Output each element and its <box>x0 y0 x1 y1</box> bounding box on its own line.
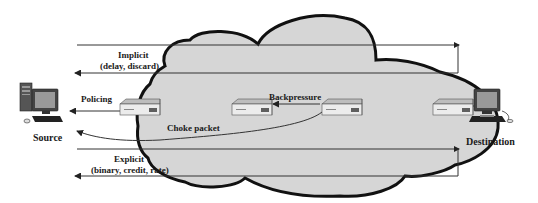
implicit-label: Implicit <box>118 51 149 60</box>
source-computer-icon <box>20 83 63 123</box>
destination-label: Destination <box>466 137 515 147</box>
router-4 <box>433 99 473 115</box>
explicit-label: Explicit <box>114 155 144 164</box>
router-1 <box>120 99 160 115</box>
policing-label: Policing <box>81 95 112 104</box>
congestion-control-diagram: Implicit (delay, discard) Policing Backp… <box>0 0 538 203</box>
explicit-sub-label: (binary, credit, rate) <box>91 166 169 175</box>
router-3 <box>322 99 362 115</box>
implicit-sub-label: (delay, discard) <box>100 62 159 71</box>
backpressure-label: Backpressure <box>269 93 321 102</box>
router-2 <box>232 99 272 115</box>
destination-computer-icon <box>469 89 513 123</box>
choke-packet-label: Choke packet <box>167 124 220 133</box>
source-label: Source <box>33 133 62 143</box>
